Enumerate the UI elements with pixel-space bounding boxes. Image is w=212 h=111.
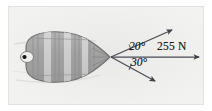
bow-dot-icon — [22, 55, 26, 59]
deck-band-1 — [44, 28, 51, 86]
deck-band-2 — [64, 28, 71, 86]
angle-label-lower: 30° — [131, 57, 147, 69]
figure-container: 20° 30° 255 N — [0, 0, 212, 111]
angle-label-upper: 20° — [129, 41, 145, 53]
force-magnitude-label: 255 N — [157, 41, 186, 53]
figure-canvas — [0, 0, 212, 111]
